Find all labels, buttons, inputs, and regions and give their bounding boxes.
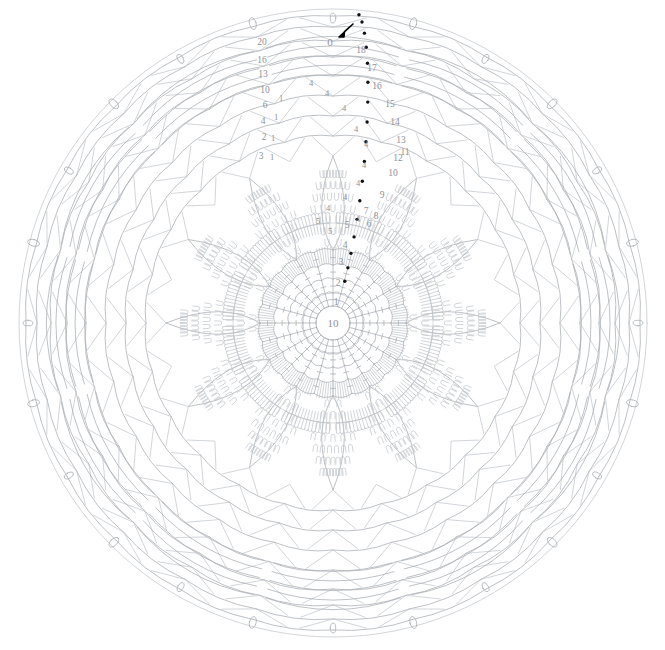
crochet-diagram: 1817161514131211109876543212016131064234…: [0, 0, 665, 650]
round-number-label: 15: [385, 99, 395, 109]
start-label: 0: [327, 36, 333, 48]
round-boundary-dot: [357, 13, 360, 16]
round-boundary-dot: [343, 280, 346, 283]
round-number-label: 2: [336, 278, 341, 288]
round-boundary-dot: [366, 81, 369, 84]
round-number-label: 5: [345, 220, 350, 230]
stitch-total-label: 13: [258, 69, 268, 79]
round-number-label: 11: [400, 147, 409, 157]
round-boundary-dot: [361, 180, 364, 183]
stitch-count-label: 1: [279, 93, 283, 103]
round-boundary-dot: [358, 199, 361, 202]
stitch-total-label: 2: [262, 132, 267, 142]
stitch-count-label: 1: [271, 133, 275, 143]
stitch-count-label: 5: [316, 216, 320, 226]
round-number-label: 6: [367, 219, 372, 229]
round-number-label: 8: [374, 211, 379, 221]
round-boundary-dot: [346, 266, 349, 269]
chart-canvas: 1817161514131211109876543212016131064234…: [0, 0, 665, 650]
center-ring-label: 10: [328, 317, 340, 329]
round-number-label: 16: [372, 81, 382, 91]
round-boundary-dot: [365, 120, 368, 123]
round-boundary-dot: [349, 252, 352, 255]
round-boundary-dot: [363, 31, 366, 34]
round-boundary-dot: [352, 235, 355, 238]
round-boundary-dot: [360, 20, 363, 23]
round-number-label: 13: [396, 135, 406, 145]
stitch-total-label: 16: [257, 55, 267, 65]
round-number-label: 17: [367, 63, 377, 73]
stitch-total-label: 4: [261, 116, 266, 126]
round-number-label: 14: [390, 117, 400, 127]
round-number-label: 10: [388, 168, 398, 178]
round-number-label: 3: [339, 257, 344, 267]
round-boundary-dot: [366, 100, 369, 103]
stitch-total-label: 10: [260, 85, 270, 95]
stitch-total-label: 3: [259, 151, 264, 161]
round-number-label: 1: [334, 297, 339, 307]
round-number-label: 18: [356, 45, 366, 55]
stitch-count-label: 5: [328, 226, 332, 236]
stitch-total-label: 6: [263, 100, 268, 110]
round-number-label: 7: [364, 206, 369, 216]
stitch-total-label: 20: [257, 37, 267, 47]
stitch-count-label: 1: [270, 152, 274, 162]
round-number-label: 9: [380, 190, 385, 200]
stitch-count-label: 1: [274, 112, 278, 122]
round-number-label: 4: [343, 240, 348, 250]
